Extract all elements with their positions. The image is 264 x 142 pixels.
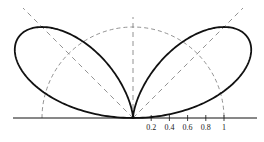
- polar-diagram: 0.20.40.60.81: [0, 0, 264, 142]
- tick-label: 0.2: [146, 123, 156, 132]
- tick-label: 0.6: [183, 123, 193, 132]
- diagonal-guide-135: [23, 8, 133, 118]
- diagonal-guide-45: [133, 8, 243, 118]
- guide-lines: [23, 8, 243, 118]
- tick-label: 1: [222, 123, 226, 132]
- tick-label: 0.8: [201, 123, 211, 132]
- tick-label: 0.4: [164, 123, 174, 132]
